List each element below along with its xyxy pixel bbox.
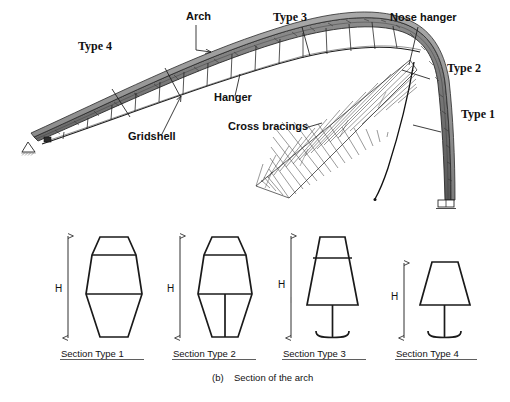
caption-text: Section of the arch (234, 372, 313, 383)
label-gridshell: Gridshell (128, 130, 176, 142)
dim-label-3: H (278, 279, 285, 290)
label-type-1: Type 1 (461, 107, 495, 121)
label-cross-bracings: Cross bracings (228, 120, 308, 132)
section-4-caption: Section Type 4 (396, 348, 459, 359)
nose-hanger-end-node (374, 198, 377, 201)
label-type-4: Type 4 (78, 39, 112, 53)
section-2-caption: Section Type 2 (173, 348, 236, 359)
dim-label-4: H (391, 291, 398, 302)
label-arch: Arch (186, 10, 211, 22)
deck-end-bearing-left (44, 137, 51, 142)
dim-label-1: H (55, 283, 62, 294)
figure-arch-sections: Arch Type 4 Type 3 Nose hanger Type 2 Ty… (0, 0, 510, 402)
label-type-3: Type 3 (273, 10, 307, 24)
label-nose-hanger: Nose hanger (390, 11, 457, 23)
label-type-2: Type 2 (447, 61, 481, 75)
section-3-caption: Section Type 3 (283, 348, 346, 359)
dim-label-2: H (167, 283, 174, 294)
section-1-caption: Section Type 1 (61, 348, 124, 359)
label-hanger: Hanger (214, 91, 253, 103)
caption-marker: (b) (212, 372, 224, 383)
roller-support-right (436, 200, 456, 209)
